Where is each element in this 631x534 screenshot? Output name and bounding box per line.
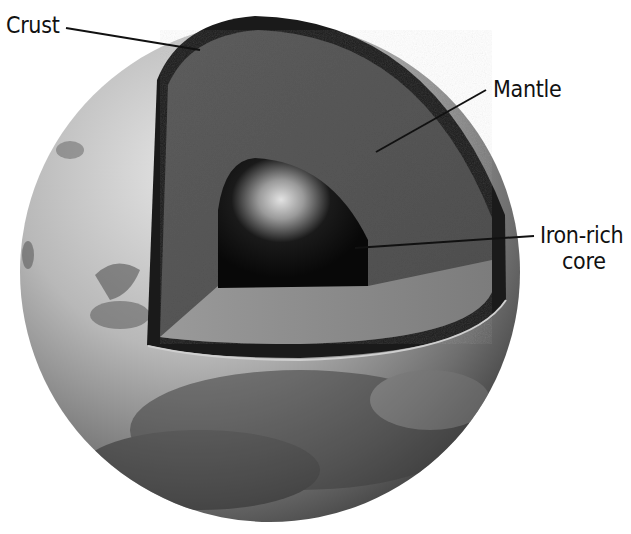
planet-diagram: Crust Mantle Iron-rich core bbox=[0, 0, 631, 534]
core-label: Iron-rich core bbox=[540, 222, 623, 275]
cutaway-wedge bbox=[147, 16, 506, 360]
core-label-line1: Iron-rich bbox=[540, 222, 623, 248]
crust-label: Crust bbox=[6, 12, 59, 38]
core-label-line2: core bbox=[540, 248, 623, 274]
mantle-label: Mantle bbox=[493, 76, 561, 102]
